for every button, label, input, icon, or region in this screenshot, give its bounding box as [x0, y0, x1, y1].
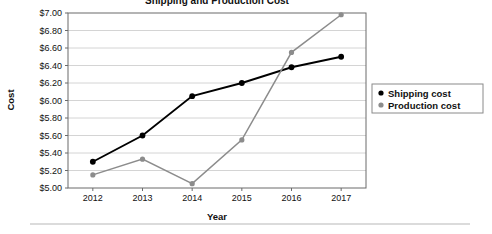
- data-series-layer: [90, 12, 344, 186]
- y-tick-label: $5.00: [39, 183, 62, 193]
- x-tick-label: 2013: [132, 193, 152, 203]
- y-tick-label: $7.00: [39, 8, 62, 18]
- data-point: [90, 159, 96, 165]
- data-point: [140, 157, 145, 162]
- data-point: [239, 80, 245, 86]
- data-point: [339, 12, 344, 17]
- gridlines: [68, 31, 366, 171]
- x-tick-label: 2012: [83, 193, 103, 203]
- chart-figure: Shipping and Production Cost $5.00$5.20$…: [0, 0, 492, 234]
- x-tick-label: 2015: [232, 193, 252, 203]
- data-point: [189, 93, 195, 99]
- y-tick-label: $6.00: [39, 96, 62, 106]
- legend-label-production: Production cost: [388, 100, 461, 111]
- series-line-shipping: [93, 57, 341, 162]
- x-axis-title: Year: [207, 211, 227, 222]
- data-point: [190, 181, 195, 186]
- data-point: [289, 64, 295, 70]
- y-axis-tick-labels: $5.00$5.20$5.40$5.60$5.80$6.00$6.20$6.40…: [39, 8, 68, 193]
- x-tick-label: 2016: [281, 193, 301, 203]
- y-tick-label: $5.80: [39, 113, 62, 123]
- x-tick-label: 2017: [331, 193, 351, 203]
- y-tick-label: $6.80: [39, 26, 62, 36]
- legend-label-shipping: Shipping cost: [388, 88, 452, 99]
- data-point: [289, 50, 294, 55]
- chart-legend: Shipping cost Production cost: [372, 84, 483, 113]
- y-tick-label: $6.60: [39, 43, 62, 53]
- y-axis-title: Cost: [5, 89, 16, 111]
- data-point: [140, 133, 146, 139]
- x-tick-label: 2014: [182, 193, 202, 203]
- data-point: [239, 137, 244, 142]
- y-tick-label: $5.60: [39, 131, 62, 141]
- dot-gray-icon: [378, 102, 383, 107]
- chart-title: Shipping and Production Cost: [145, 0, 290, 6]
- cost-line-chart: Shipping and Production Cost $5.00$5.20$…: [0, 0, 492, 234]
- y-tick-label: $6.40: [39, 61, 62, 71]
- y-tick-label: $6.20: [39, 78, 62, 88]
- dot-black-icon: [378, 90, 383, 95]
- data-point: [338, 54, 344, 60]
- y-tick-label: $5.40: [39, 148, 62, 158]
- data-point: [90, 172, 95, 177]
- y-tick-label: $5.20: [39, 166, 62, 176]
- x-axis-tick-labels: 201220132014201520162017: [83, 188, 351, 203]
- series-line-production: [93, 15, 341, 184]
